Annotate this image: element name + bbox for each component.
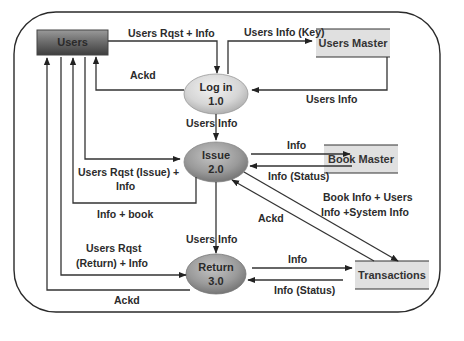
login-name: Log in bbox=[200, 81, 233, 93]
svg-text:Info: Info bbox=[288, 253, 307, 265]
svg-text:Info (Status): Info (Status) bbox=[274, 284, 335, 296]
flow-transactions-to-return: Info (Status) bbox=[248, 280, 343, 296]
flow-login-to-users-master: Users Info (Key) bbox=[228, 26, 325, 74]
data-store-book-master[interactable]: Book Master bbox=[324, 145, 398, 173]
issue-name: Issue bbox=[202, 149, 230, 161]
data-store-transactions[interactable]: Transactions bbox=[355, 261, 429, 289]
svg-text:Info: Info bbox=[116, 180, 135, 192]
svg-text:Info (Status): Info (Status) bbox=[268, 170, 329, 182]
data-flow-diagram: Users Users Master Book Master Transacti… bbox=[0, 0, 464, 341]
issue-number: 2.0 bbox=[208, 163, 223, 175]
svg-text:Users Rqst (Issue) +: Users Rqst (Issue) + bbox=[78, 166, 179, 178]
users-label: Users bbox=[57, 36, 88, 48]
flow-users-master-to-login: Users Info bbox=[252, 57, 387, 105]
svg-text:Info + book: Info + book bbox=[97, 208, 153, 220]
flow-return-to-transactions: Info bbox=[252, 253, 352, 268]
flow-issue-to-return: Users Info bbox=[186, 182, 237, 253]
process-login[interactable]: Log in 1.0 bbox=[184, 74, 248, 114]
return-name: Return bbox=[198, 261, 234, 273]
flow-login-to-issue: Users Info bbox=[186, 114, 237, 140]
svg-text:(Return) + Info: (Return) + Info bbox=[76, 257, 148, 269]
flow-login-to-users-ackd: Ackd bbox=[96, 57, 184, 90]
svg-text:Users Info: Users Info bbox=[186, 117, 237, 129]
login-number: 1.0 bbox=[208, 95, 223, 107]
flow-users-to-issue: Users Rqst (Issue) + Info bbox=[78, 57, 180, 192]
svg-text:Ackd: Ackd bbox=[114, 294, 140, 306]
svg-text:Users Info (Key): Users Info (Key) bbox=[244, 26, 325, 38]
external-entity-users[interactable]: Users bbox=[37, 30, 108, 55]
svg-text:Users Rqst + Info: Users Rqst + Info bbox=[128, 27, 215, 39]
svg-text:Users Info: Users Info bbox=[186, 233, 237, 245]
svg-text:Ackd: Ackd bbox=[258, 212, 284, 224]
svg-text:Info: Info bbox=[287, 139, 306, 151]
svg-text:Book Info + Users: Book Info + Users bbox=[323, 191, 413, 203]
process-return[interactable]: Return 3.0 bbox=[186, 254, 246, 294]
flow-issue-to-users: Info + book bbox=[73, 58, 196, 220]
return-number: 3.0 bbox=[208, 275, 223, 287]
book-master-label: Book Master bbox=[328, 153, 395, 165]
flow-users-to-login: Users Rqst + Info bbox=[108, 27, 217, 73]
dfd-canvas: Users Users Master Book Master Transacti… bbox=[0, 0, 464, 341]
svg-text:Users Info: Users Info bbox=[306, 93, 357, 105]
svg-text:Info +System Info: Info +System Info bbox=[321, 206, 409, 218]
users-master-label: Users Master bbox=[318, 37, 388, 49]
process-issue[interactable]: Issue 2.0 bbox=[184, 142, 248, 182]
data-store-users-master[interactable]: Users Master bbox=[316, 29, 390, 57]
svg-text:Ackd: Ackd bbox=[130, 69, 156, 81]
svg-text:Users Rqst: Users Rqst bbox=[86, 242, 142, 254]
transactions-label: Transactions bbox=[358, 269, 426, 281]
